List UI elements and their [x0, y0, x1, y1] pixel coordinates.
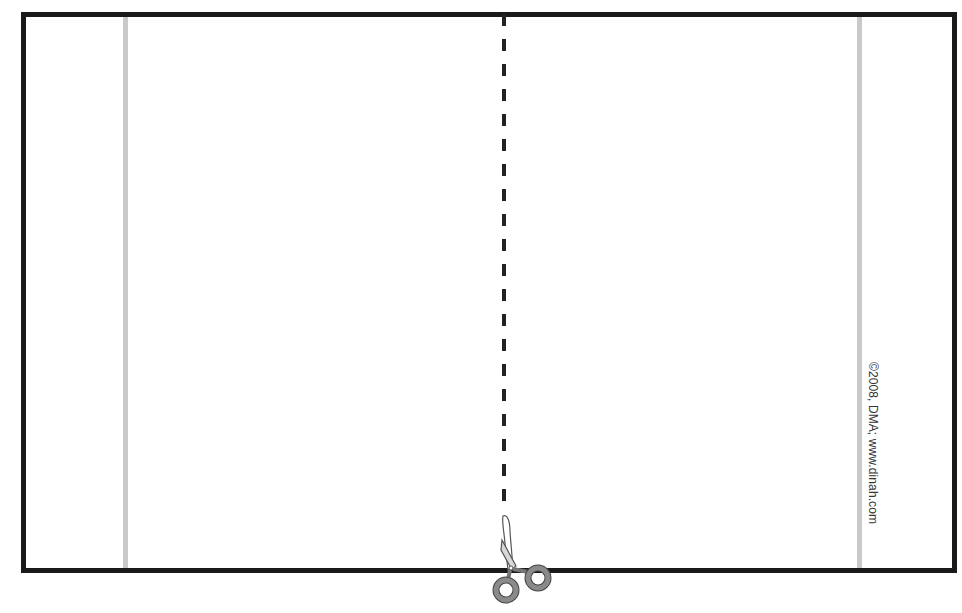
dashed-cut-line — [502, 14, 506, 514]
page-title-cutoff — [600, 0, 760, 2]
scissors-icon — [480, 510, 560, 613]
card-outline-frame — [21, 12, 957, 573]
copyright-text: ©2008, DMA; www.dinah.com — [866, 362, 880, 524]
fold-line-right — [857, 17, 862, 568]
fold-line-left — [123, 17, 128, 568]
